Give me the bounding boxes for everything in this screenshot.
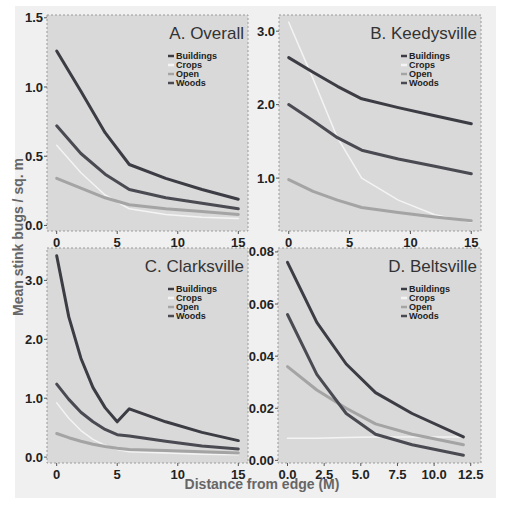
y-tick-label: 0.0 xyxy=(25,218,43,233)
y-tick-label: 0.0 xyxy=(25,450,43,465)
panel-title: A. Overall xyxy=(169,24,244,43)
legend-label-woods: Woods xyxy=(176,311,206,321)
plot-area xyxy=(47,248,248,463)
y-tick-label: 2.0 xyxy=(257,97,275,112)
panel-title: C. Clarksville xyxy=(145,257,244,276)
panel-title: B. Keedysville xyxy=(370,24,477,43)
panel-title: D. Beltsville xyxy=(388,257,477,276)
chart-grid: 0.00.51.01.5051015A. OverallBuildingsCro… xyxy=(0,0,505,513)
x-tick-label: 5.0 xyxy=(352,467,370,482)
legend-label-woods: Woods xyxy=(409,311,439,321)
x-tick-label: 5 xyxy=(114,467,121,482)
y-tick-label: 1.5 xyxy=(25,10,43,25)
x-tick-label: 7.5 xyxy=(388,467,406,482)
x-tick-label: 12.5 xyxy=(458,467,483,482)
x-axis-label: Distance from edge (M) xyxy=(185,476,340,492)
x-tick-label: 0 xyxy=(53,467,60,482)
y-tick-label: 1.0 xyxy=(257,171,275,186)
y-tick-label: 0.5 xyxy=(25,149,43,164)
panel-clarksville: 0.01.02.03.0051015C. ClarksvilleBuilding… xyxy=(25,248,248,482)
x-tick-label: 10.0 xyxy=(421,467,446,482)
y-tick-label: 0.04 xyxy=(249,349,275,364)
panel-keedysville: 1.02.03.0051015B. KeedysvilleBuildingsCr… xyxy=(257,15,481,250)
y-tick-label: 0.02 xyxy=(249,401,274,416)
x-tick-label: 10 xyxy=(171,467,185,482)
y-tick-label: 1.0 xyxy=(25,80,43,95)
y-tick-label: 0.00 xyxy=(249,453,274,468)
y-tick-label: 1.0 xyxy=(25,391,43,406)
y-tick-label: 0.06 xyxy=(249,297,274,312)
panel-overall: 0.00.51.01.5051015A. OverallBuildingsCro… xyxy=(25,10,248,250)
plot-area xyxy=(47,15,248,231)
panel-beltsville: 0.000.020.040.060.080.02.55.07.510.012.5… xyxy=(249,244,484,482)
y-tick-label: 3.0 xyxy=(257,24,275,39)
plot-area xyxy=(279,15,481,231)
y-axis-label: Mean stink bugs / sq. m xyxy=(10,158,26,316)
legend-label-woods: Woods xyxy=(409,78,439,88)
legend-label-woods: Woods xyxy=(176,78,206,88)
y-tick-label: 2.0 xyxy=(25,332,43,347)
y-tick-label: 3.0 xyxy=(25,273,43,288)
y-tick-label: 0.08 xyxy=(249,244,274,259)
